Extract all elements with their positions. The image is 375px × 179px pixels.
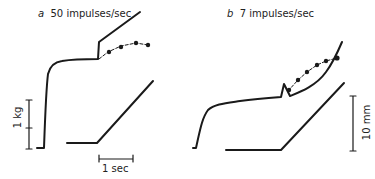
panel-b-letter: b [227,8,233,19]
scale-bar-time [99,155,133,162]
data-point [287,88,291,92]
scale-label-length: 10 mm [361,103,372,143]
panel-b-dots [287,55,340,92]
data-point [134,41,138,45]
scale-bar-force [26,100,32,149]
data-point [119,45,123,49]
data-point [305,70,309,74]
scale-label-force: 1 kg [12,103,23,133]
panel-a-isometric-dashed [99,43,148,59]
data-point [324,59,328,63]
scale-bar-length [350,96,356,151]
panel-b [193,42,356,151]
data-point [146,43,150,47]
panel-a-dots [107,41,150,54]
panel-a [26,12,153,162]
panel-a-letter: a [38,8,44,19]
panel-b-subtitle: 7 impulses/sec [240,8,314,19]
panel-a-tension-trace [37,12,140,148]
panel-b-length-ramp [226,83,344,150]
data-point [107,50,111,54]
panel-b-tension-trace [193,42,342,148]
data-point [296,78,300,82]
scale-label-time: 1 sec [102,163,128,174]
panel-b-title: b 7 impulses/sec [227,8,314,19]
data-point [334,55,339,60]
figure-canvas [0,0,375,179]
panel-a-subtitle: 50 impulses/sec [51,8,132,19]
panel-a-length-ramp [67,81,153,143]
data-point [315,63,319,67]
panel-a-title: a 50 impulses/sec [38,8,131,19]
